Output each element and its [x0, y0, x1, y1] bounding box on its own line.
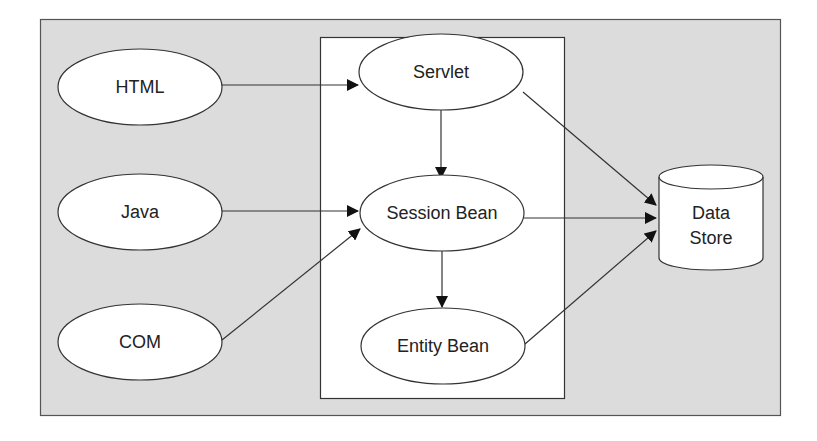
node-entity-bean-label: Entity Bean [397, 336, 489, 356]
node-com-label: COM [119, 332, 161, 352]
node-java: Java [58, 174, 222, 250]
node-java-label: Java [121, 202, 160, 222]
node-html: HTML [58, 49, 222, 125]
node-com: COM [58, 304, 222, 380]
node-session-bean: Session Bean [360, 175, 524, 251]
node-entity-bean: Entity Bean [361, 308, 525, 384]
node-servlet: Servlet [359, 34, 523, 110]
data-store-label-line2: Store [689, 228, 732, 248]
data-store-cylinder: Data Store [659, 165, 763, 270]
node-servlet-label: Servlet [413, 62, 469, 82]
node-html-label: HTML [116, 77, 165, 97]
node-session-bean-label: Session Bean [386, 203, 497, 223]
architecture-diagram: HTML Java COM Servlet Session Bean Entit… [0, 0, 817, 441]
data-store-label-line1: Data [692, 203, 731, 223]
